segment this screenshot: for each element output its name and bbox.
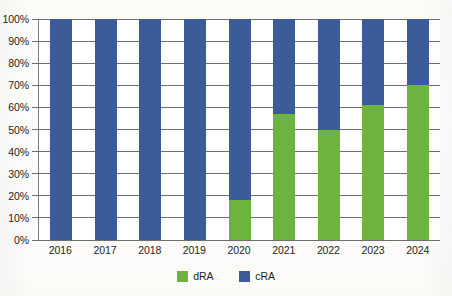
bars-layer xyxy=(39,19,440,240)
y-axis-label: 70% xyxy=(8,79,29,91)
stacked-bar-2022[interactable] xyxy=(318,19,340,240)
x-axis-label-2022: 2022 xyxy=(306,244,351,256)
y-tick-mark xyxy=(32,63,39,64)
bar-slot-2018 xyxy=(128,19,173,240)
bar-slot-2023 xyxy=(351,19,396,240)
y-axis-label: 0% xyxy=(14,234,29,246)
y-tick-mark xyxy=(32,240,39,241)
stacked-bar-2024[interactable] xyxy=(407,19,429,240)
x-axis-label-2018: 2018 xyxy=(127,244,172,256)
chart-legend: dRA cRA xyxy=(0,270,452,282)
y-axis-label: 80% xyxy=(8,57,29,69)
y-tick-mark xyxy=(32,41,39,42)
legend-swatch-cra-icon xyxy=(239,271,250,282)
stacked-bar-2016[interactable] xyxy=(50,19,72,240)
y-axis-label: 50% xyxy=(8,124,29,136)
legend-item-cra[interactable]: cRA xyxy=(239,270,275,282)
x-axis-label-2016: 2016 xyxy=(38,244,83,256)
stacked-bar-2018[interactable] xyxy=(139,19,161,240)
stacked-bar-2021[interactable] xyxy=(273,19,295,240)
y-tick-mark xyxy=(32,107,39,108)
stacked-bar-2023[interactable] xyxy=(362,19,384,240)
x-axis-label-2020: 2020 xyxy=(217,244,262,256)
y-tick-mark xyxy=(32,173,39,174)
bar-segment-cra-2022[interactable] xyxy=(318,19,340,130)
y-tick-mark xyxy=(32,129,39,130)
y-axis-label: 40% xyxy=(8,146,29,158)
y-tick-mark xyxy=(32,195,39,196)
x-axis-label-2017: 2017 xyxy=(83,244,128,256)
legend-swatch-dra-icon xyxy=(177,271,188,282)
chart-container: 0%10%20%30%40%50%60%70%80%90%100% 201620… xyxy=(0,0,452,296)
bar-segment-cra-2021[interactable] xyxy=(273,19,295,114)
y-tick-mark xyxy=(32,85,39,86)
y-axis-label: 100% xyxy=(3,13,29,25)
bar-segment-cra-2023[interactable] xyxy=(362,19,384,105)
legend-label-cra: cRA xyxy=(255,270,275,282)
y-axis-label: 60% xyxy=(8,101,29,113)
stacked-bar-2020[interactable] xyxy=(229,19,251,240)
stacked-bar-2019[interactable] xyxy=(184,19,206,240)
stacked-bar-2017[interactable] xyxy=(95,19,117,240)
bar-segment-dra-2023[interactable] xyxy=(362,105,384,240)
bar-segment-cra-2019[interactable] xyxy=(184,19,206,240)
y-tick-mark xyxy=(32,217,39,218)
legend-label-dra: dRA xyxy=(193,270,213,282)
bar-segment-dra-2024[interactable] xyxy=(407,85,429,240)
x-axis-label-2021: 2021 xyxy=(261,244,306,256)
plot-area: 0%10%20%30%40%50%60%70%80%90%100% xyxy=(38,19,440,241)
x-axis-label-2023: 2023 xyxy=(351,244,396,256)
bar-segment-cra-2016[interactable] xyxy=(50,19,72,240)
bar-slot-2020 xyxy=(217,19,262,240)
bar-slot-2021 xyxy=(262,19,307,240)
y-tick-mark xyxy=(32,151,39,152)
bar-segment-dra-2022[interactable] xyxy=(318,130,340,241)
bar-segment-dra-2021[interactable] xyxy=(273,114,295,240)
x-axis-labels: 201620172018201920202021202220232024 xyxy=(38,244,440,256)
bar-segment-cra-2020[interactable] xyxy=(229,19,251,200)
bar-slot-2016 xyxy=(39,19,84,240)
bar-segment-cra-2024[interactable] xyxy=(407,19,429,85)
bar-slot-2017 xyxy=(84,19,129,240)
y-axis-label: 90% xyxy=(8,35,29,47)
plot-wrapper: 0%10%20%30%40%50%60%70%80%90%100% xyxy=(38,19,440,241)
legend-item-dra[interactable]: dRA xyxy=(177,270,213,282)
y-tick-mark xyxy=(32,19,39,20)
y-axis-label: 30% xyxy=(8,168,29,180)
bar-segment-cra-2018[interactable] xyxy=(139,19,161,240)
bar-segment-cra-2017[interactable] xyxy=(95,19,117,240)
x-axis-label-2024: 2024 xyxy=(395,244,440,256)
bar-slot-2024 xyxy=(396,19,441,240)
bar-slot-2022 xyxy=(306,19,351,240)
bar-segment-dra-2020[interactable] xyxy=(229,200,251,240)
x-axis-label-2019: 2019 xyxy=(172,244,217,256)
y-axis-label: 20% xyxy=(8,190,29,202)
bar-slot-2019 xyxy=(173,19,218,240)
y-axis-label: 10% xyxy=(8,212,29,224)
